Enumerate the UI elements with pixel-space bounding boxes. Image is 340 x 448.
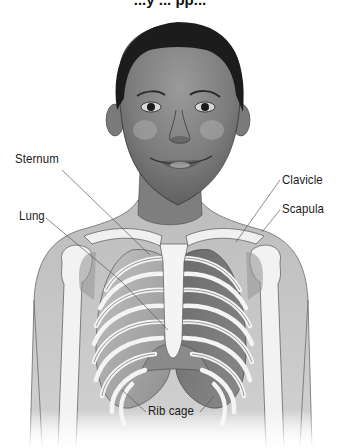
label-sternum: Sternum [15, 151, 59, 166]
label-clavicle: Clavicle [282, 172, 323, 187]
label-scapula: Scapula [282, 201, 324, 216]
label-rib-cage: Rib cage [148, 403, 194, 418]
head [106, 22, 250, 205]
leader-scapula [262, 210, 280, 232]
anatomy-illustration [0, 0, 340, 448]
label-lung: Lung [19, 208, 45, 223]
